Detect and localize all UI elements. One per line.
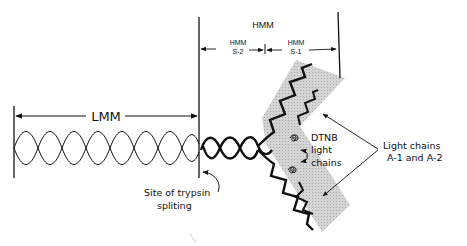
hmm-s1-arrow-right — [309, 49, 336, 50]
stray-mark — [190, 234, 196, 243]
hmm-s2-label-line1: HMM — [230, 39, 247, 46]
dtnb-label-line2: light — [311, 144, 332, 155]
lmm-label: LMM — [91, 109, 121, 124]
light-chains-label-line1: Light chains — [383, 140, 440, 151]
dtnb-label-line1: DTNB — [311, 132, 338, 143]
hmm-s2-label-line2: S-2 — [233, 48, 244, 55]
hmm-s1-label-line1: HMM — [288, 39, 305, 46]
hmm-s1-label-line2: S-1 — [291, 48, 302, 55]
trypsin-site-label-line2: spliting — [157, 200, 192, 211]
s2-coiled-coil — [201, 137, 272, 159]
hmm-end-line — [338, 12, 340, 78]
lmm-coiled-coil — [14, 132, 199, 165]
hmm-label: HMM — [252, 20, 274, 30]
dtnb-label-line3: chains — [311, 157, 342, 168]
trypsin-site-label-line1: Site of trypsin — [144, 187, 210, 198]
myosin-diagram: HMM HMM S-2 HMM S-1 LMM DTNB light chain… — [0, 0, 467, 246]
light-chains-label-line2: A-1 and A-2 — [387, 152, 442, 163]
